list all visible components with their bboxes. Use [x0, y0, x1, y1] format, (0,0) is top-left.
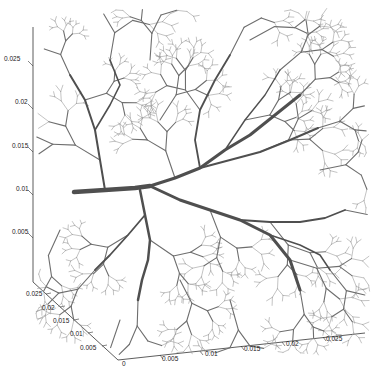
- y-tick-label: 0.01: [70, 330, 83, 337]
- upper-right-sub: [200, 128, 318, 168]
- left-up-branch: [70, 75, 105, 190]
- y-tick-label: 0.005: [80, 344, 97, 351]
- z-tick-label: 0.025: [4, 55, 21, 62]
- x-tick-label: 0.02: [286, 340, 299, 347]
- y-tick-label: 0.015: [53, 317, 70, 324]
- x-tick-label: 0.025: [326, 335, 343, 342]
- fine-branches: [36, 9, 370, 355]
- vascular-tree-3d-plot: 0.0250.020.0150.010.0050.0250.020.0150.0…: [0, 0, 375, 383]
- top-sub: [225, 70, 280, 150]
- x-tick-label: 0.01: [205, 350, 218, 357]
- y-tick-label: 0.02: [42, 304, 55, 311]
- z-tick-label: 0.02: [15, 98, 28, 105]
- x-tick-label: 0.005: [162, 355, 179, 362]
- x-tick-label: 0.015: [244, 345, 261, 352]
- upper-left-branch: [95, 60, 120, 130]
- root-trunk: [74, 186, 150, 192]
- down-branch: [138, 190, 150, 300]
- z-tick-label: 0.005: [12, 228, 29, 235]
- z-tick-label: 0.015: [12, 142, 29, 149]
- right-sub: [240, 210, 345, 222]
- z-tick-label: 0.01: [16, 185, 29, 192]
- y-tick-label: 0.025: [26, 290, 43, 297]
- down-left-branch: [95, 215, 145, 270]
- x-tick-label: 0: [122, 360, 126, 367]
